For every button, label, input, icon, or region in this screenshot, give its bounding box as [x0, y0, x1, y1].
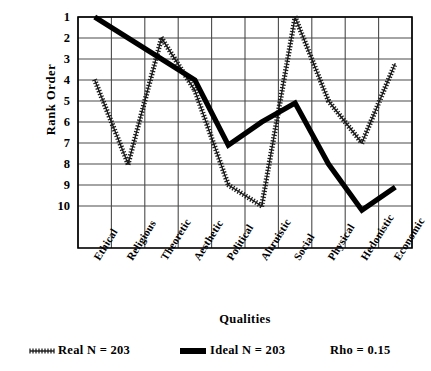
chart-legend: Real N = 203 Ideal N = 203 Rho = 0.15 — [0, 336, 431, 366]
x-axis-title: Qualities — [78, 312, 412, 327]
legend-label-ideal: Ideal N = 203 — [210, 343, 285, 358]
legend-label-real: Real N = 203 — [58, 343, 130, 358]
legend-swatch-ideal — [180, 348, 206, 354]
rank-order-line-chart: Rank Order 12345678910 EthicalReligiousT… — [0, 0, 431, 371]
rho-annotation: Rho = 0.15 — [330, 343, 390, 358]
